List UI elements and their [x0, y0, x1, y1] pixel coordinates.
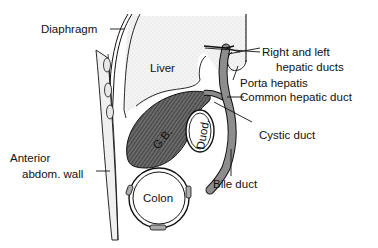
hepatic-ducts-callout-line1: Right and left [262, 46, 331, 58]
liver-label: Liver [150, 62, 175, 74]
cystic-duct-callout: Cystic duct [259, 129, 316, 141]
diaphragm-callout: Diaphragm [41, 23, 97, 35]
anatomy-diagram: G.B. Duod. Colon Liver [0, 0, 378, 248]
porta-hepatis-callout: Porta hepatis [240, 77, 308, 89]
common-hepatic-duct-callout: Common hepatic duct [240, 91, 353, 103]
colon: Colon [125, 168, 191, 230]
bile-duct-callout: Bile duct [213, 178, 258, 190]
abdominal-wall-callout-line2: abdom. wall [22, 168, 83, 180]
hepatic-ducts-callout-line2: hepatic ducts [276, 61, 344, 73]
colon-label: Colon [143, 192, 173, 204]
anterior-abdominal-wall [96, 50, 118, 240]
duodenum: Duod. [186, 110, 214, 152]
abdominal-wall-callout-line1: Anterior [10, 152, 50, 164]
